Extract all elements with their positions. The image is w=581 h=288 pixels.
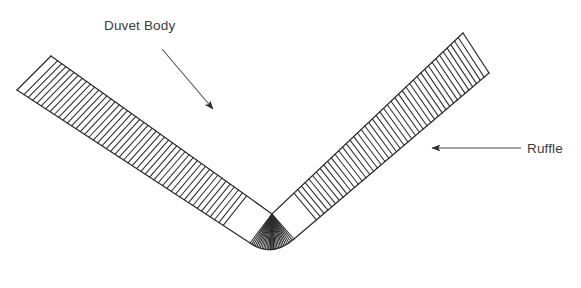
duvet-body-label: Duvet Body <box>104 18 175 33</box>
duvet-ruffle-diagram: Duvet Body Ruffle <box>0 0 581 288</box>
canvas-background <box>0 0 581 288</box>
ruffle-label: Ruffle <box>527 141 563 156</box>
diagram-canvas: Duvet Body Ruffle <box>0 0 581 288</box>
